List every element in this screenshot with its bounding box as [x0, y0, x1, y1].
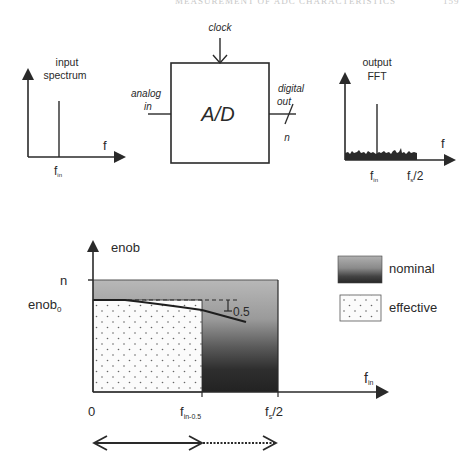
input-x-label: f — [103, 138, 107, 153]
arrow-right-icon — [376, 385, 389, 399]
x-tick-fin05-label: fin-0.5 — [180, 404, 201, 420]
digital-out-label-line1: digital — [278, 83, 305, 94]
arrow-up-icon — [87, 240, 99, 252]
fft-title-line1: output — [362, 56, 391, 68]
y-axis-label: enob — [111, 240, 140, 255]
half-bit-annotation: 0.5 — [233, 305, 250, 319]
arrow-up-icon — [22, 68, 34, 80]
fft-title-line2: FFT — [367, 70, 387, 82]
y-tick-enob0-label: enob0 — [28, 297, 62, 314]
arrow-right-icon — [444, 154, 456, 166]
output-fft-plot: output FFT f fin fs/2 — [339, 56, 456, 183]
adc-block: A/D clock analog in digital out n — [131, 22, 305, 163]
input-fin-label: fin — [54, 164, 62, 178]
running-header: MEASUREMENT OF ADC CHARACTERISTICS 159 — [175, 0, 460, 6]
legend-swatch-effective — [340, 295, 381, 321]
page-number: 159 — [443, 0, 460, 6]
fft-noise-floor — [345, 148, 417, 160]
arrow-right-icon — [114, 151, 126, 163]
digital-out-label-line2: out — [277, 96, 292, 107]
clock-label: clock — [209, 22, 233, 33]
analog-in-label-line1: analog — [131, 88, 161, 99]
input-spectrum-plot: input spectrum f fin — [22, 56, 126, 178]
input-title-line2: spectrum — [43, 69, 86, 81]
bus-width-label: n — [284, 132, 290, 143]
range-arrows — [94, 436, 276, 450]
legend: nominal effective — [338, 256, 437, 321]
adc-label: A/D — [200, 103, 234, 125]
arrow-up-icon — [339, 72, 351, 84]
analog-in-label-line2: in — [144, 101, 152, 112]
y-tick-n-label: n — [60, 273, 67, 288]
input-title-line1: input — [56, 56, 79, 68]
fft-fin-label: fin — [370, 169, 378, 183]
effective-region — [93, 300, 202, 392]
legend-label-effective: effective — [389, 300, 437, 315]
x-axis-label: fin — [364, 370, 373, 386]
fft-fs2-label: fs/2 — [407, 169, 424, 183]
running-title: MEASUREMENT OF ADC CHARACTERISTICS — [175, 0, 396, 6]
adc-enob-diagram: MEASUREMENT OF ADC CHARACTERISTICS 159 i… — [0, 0, 474, 466]
x-tick-zero-label: 0 — [88, 404, 95, 419]
enob-chart: 0.5 enob n enob0 fin 0 fin-0.5 fs/2 — [28, 240, 389, 420]
legend-swatch-nominal — [338, 256, 382, 283]
x-tick-fs2-label: fs/2 — [265, 404, 283, 420]
fft-x-label: f — [441, 136, 445, 151]
legend-label-nominal: nominal — [389, 261, 435, 276]
